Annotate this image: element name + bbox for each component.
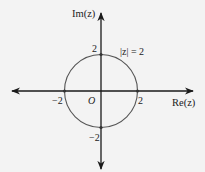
complex-plane-diagram: Im(z) Re(z) O |z| = 2 2 −2 2 −2 xyxy=(0,0,205,172)
point-neg2-imag xyxy=(99,126,102,129)
point-neg2-real xyxy=(63,89,66,92)
x-axis-label: Re(z) xyxy=(172,97,196,109)
point-2-imag xyxy=(99,53,102,56)
diagram-svg: Im(z) Re(z) O |z| = 2 2 −2 2 −2 xyxy=(0,0,205,172)
circle-label: |z| = 2 xyxy=(120,46,144,57)
origin-label: O xyxy=(88,95,95,106)
tick-y-neg: −2 xyxy=(89,132,100,143)
tick-x-pos: 2 xyxy=(138,95,143,106)
tick-x-neg: −2 xyxy=(52,95,63,106)
y-axis-label: Im(z) xyxy=(72,8,96,20)
tick-y-pos: 2 xyxy=(92,43,97,54)
point-2-real xyxy=(136,89,139,92)
